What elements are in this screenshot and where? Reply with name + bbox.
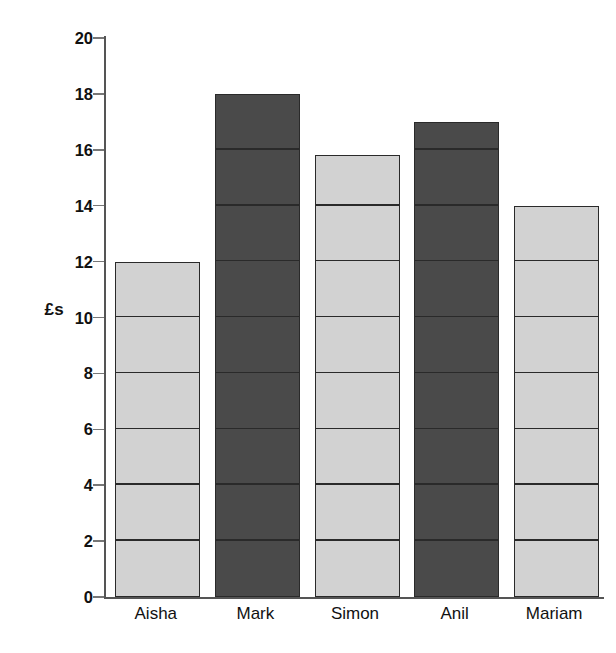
bar-segment-line bbox=[415, 148, 498, 150]
bar-segment-line bbox=[415, 483, 498, 485]
y-tick-label: 0 bbox=[49, 588, 93, 607]
bar-segment-line bbox=[316, 428, 399, 430]
bar-segment-line bbox=[415, 260, 498, 262]
y-tick-label: 18 bbox=[49, 84, 93, 103]
bar-segment-line bbox=[515, 372, 598, 374]
bar-segment-line bbox=[216, 483, 299, 485]
y-tick-label: 12 bbox=[49, 252, 93, 271]
bar-segment-line bbox=[116, 428, 199, 430]
bar-aisha bbox=[115, 262, 200, 597]
plot-area bbox=[106, 38, 604, 597]
bar-segment-line bbox=[515, 539, 598, 541]
y-tick-mark bbox=[93, 149, 104, 151]
bar-segment-line bbox=[415, 428, 498, 430]
bar-simon bbox=[315, 155, 400, 597]
y-tick-mark bbox=[93, 317, 104, 319]
bar-segment-line bbox=[515, 428, 598, 430]
y-tick-mark bbox=[93, 373, 104, 375]
y-tick-mark bbox=[93, 429, 104, 431]
bar-segment-line bbox=[415, 372, 498, 374]
bar-segment-line bbox=[515, 483, 598, 485]
bar-segment-line bbox=[216, 260, 299, 262]
bar-segment-line bbox=[415, 316, 498, 318]
bar-segment-line bbox=[116, 316, 199, 318]
bar-segment-line bbox=[415, 204, 498, 206]
y-tick-mark bbox=[93, 261, 104, 263]
bar-segment-line bbox=[216, 372, 299, 374]
bar-segment-line bbox=[116, 483, 199, 485]
bar-segment-line bbox=[116, 372, 199, 374]
bar-anil bbox=[414, 122, 499, 597]
bar-segment-line bbox=[515, 260, 598, 262]
y-tick-mark bbox=[93, 37, 104, 39]
y-tick-mark bbox=[93, 484, 104, 486]
y-tick-mark bbox=[93, 205, 104, 207]
bar-segment-line bbox=[316, 539, 399, 541]
y-tick-label: 8 bbox=[49, 364, 93, 383]
y-tick-label: 14 bbox=[49, 196, 93, 215]
bar-segment-line bbox=[216, 316, 299, 318]
y-tick-mark bbox=[93, 93, 104, 95]
x-axis-label-anil: Anil bbox=[405, 604, 505, 624]
bar-segment-line bbox=[316, 372, 399, 374]
bar-segment-line bbox=[216, 204, 299, 206]
y-tick-mark bbox=[93, 540, 104, 542]
y-tick-label: 16 bbox=[49, 140, 93, 159]
y-tick-label: 20 bbox=[49, 29, 93, 48]
y-tick-label: 10 bbox=[49, 308, 93, 327]
bar-segment-line bbox=[216, 539, 299, 541]
y-tick-label: 6 bbox=[49, 420, 93, 439]
bar-mark bbox=[215, 94, 300, 597]
bar-segment-line bbox=[415, 539, 498, 541]
y-tick-label: 4 bbox=[49, 476, 93, 495]
bar-segment-line bbox=[316, 483, 399, 485]
bar-mariam bbox=[514, 206, 599, 597]
x-axis-label-aisha: Aisha bbox=[106, 604, 206, 624]
y-tick-label: 2 bbox=[49, 532, 93, 551]
bar-segment-line bbox=[316, 260, 399, 262]
x-axis-label-mariam: Mariam bbox=[504, 604, 604, 624]
bar-segment-line bbox=[316, 204, 399, 206]
bar-segment-line bbox=[216, 428, 299, 430]
y-tick-mark bbox=[93, 596, 104, 598]
bar-segment-line bbox=[515, 316, 598, 318]
x-axis-label-simon: Simon bbox=[305, 604, 405, 624]
bar-segment-line bbox=[216, 148, 299, 150]
x-axis-line bbox=[104, 597, 604, 599]
bar-segment-line bbox=[316, 316, 399, 318]
bar-segment-line bbox=[116, 539, 199, 541]
x-axis-label-mark: Mark bbox=[206, 604, 306, 624]
bar-chart: £s 02468101214161820 AishaMarkSimonAnilM… bbox=[0, 0, 616, 653]
